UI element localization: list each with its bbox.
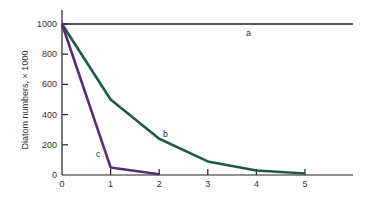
axes: 02004006008001000012345 xyxy=(37,10,353,189)
y-tick-label: 400 xyxy=(42,110,57,120)
line-chart: 02004006008001000012345 abc Diatom numbe… xyxy=(0,0,370,201)
series-label-b: b xyxy=(163,129,168,139)
x-tick-label: 2 xyxy=(157,179,162,189)
x-tick-label: 3 xyxy=(205,179,210,189)
x-tick-label: 0 xyxy=(59,179,64,189)
series-label-a: a xyxy=(246,28,251,38)
y-tick-label: 200 xyxy=(42,140,57,150)
y-tick-label: 0 xyxy=(52,170,57,180)
series-group: abc xyxy=(62,24,353,174)
series-label-c: c xyxy=(96,149,101,159)
y-tick-label: 800 xyxy=(42,49,57,59)
x-tick-label: 1 xyxy=(108,179,113,189)
x-tick-label: 5 xyxy=(302,179,307,189)
y-tick-label: 600 xyxy=(42,79,57,89)
y-tick-label: 1000 xyxy=(37,19,57,29)
y-axis-label: Diatom numbers, × 1000 xyxy=(20,51,30,150)
x-tick-label: 4 xyxy=(254,179,259,189)
